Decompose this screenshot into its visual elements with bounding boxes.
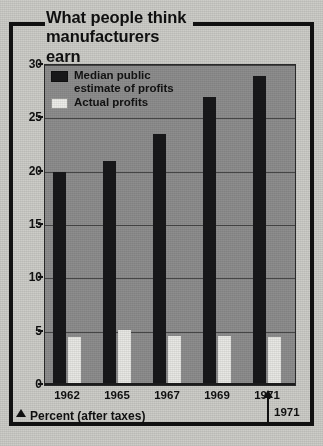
x-axis-baseline (45, 383, 295, 385)
y-tick-mark-10 (38, 276, 43, 278)
legend-swatch-median (51, 71, 68, 82)
legend: Median public estimate of profits Actual… (51, 69, 174, 110)
annotation-label: 1971 (274, 406, 300, 418)
axis-caption-label: Percent (after taxes) (30, 409, 145, 423)
plot-area: Median public estimate of profits Actual… (44, 64, 296, 386)
y-axis: 051015202530 (10, 64, 42, 386)
triangle-up-icon (16, 409, 26, 417)
bar-median-1965 (103, 161, 116, 385)
bar-series-group (45, 65, 295, 385)
bar-actual-1971 (268, 337, 281, 385)
frame-border-top-right (193, 22, 314, 26)
y-tick-mark-5 (38, 330, 43, 332)
legend-swatch-actual (51, 98, 68, 109)
bar-actual-1969 (218, 336, 231, 385)
bar-median-1967 (153, 134, 166, 385)
y-tick-mark-0 (38, 383, 43, 385)
chart-page: What people think manufacturers earn 051… (0, 0, 323, 446)
frame-border-top-left (9, 22, 45, 26)
y-tick-mark-30 (38, 63, 43, 65)
axis-caption: Percent (after taxes) (16, 409, 145, 423)
legend-label-median: Median public estimate of profits (74, 69, 174, 95)
y-tick-mark-20 (38, 170, 43, 172)
legend-label-actual: Actual profits (74, 96, 148, 109)
y-tick-mark-15 (38, 223, 43, 225)
legend-item-actual: Actual profits (51, 96, 174, 109)
bar-actual-1965 (118, 330, 131, 385)
chart-title-line-1: What people think (46, 8, 186, 26)
legend-item-median: Median public estimate of profits (51, 69, 174, 95)
bar-median-1971 (253, 76, 266, 385)
bar-actual-1967 (168, 336, 181, 385)
bar-actual-1962 (68, 337, 81, 385)
x-axis: 19621965196719691971 (44, 389, 296, 405)
arrow-shaft (267, 396, 269, 422)
bar-median-1969 (203, 97, 216, 385)
frame-border-right (310, 22, 314, 426)
y-tick-mark-25 (38, 116, 43, 118)
x-tick-label-1969: 1969 (204, 389, 230, 401)
bar-median-1962 (53, 172, 66, 385)
x-tick-label-1967: 1967 (154, 389, 180, 401)
x-tick-label-1962: 1962 (54, 389, 80, 401)
x-tick-label-1965: 1965 (104, 389, 130, 401)
chart-title-line-2: manufacturers earn (46, 27, 196, 66)
chart-title: What people think manufacturers earn (46, 8, 196, 66)
